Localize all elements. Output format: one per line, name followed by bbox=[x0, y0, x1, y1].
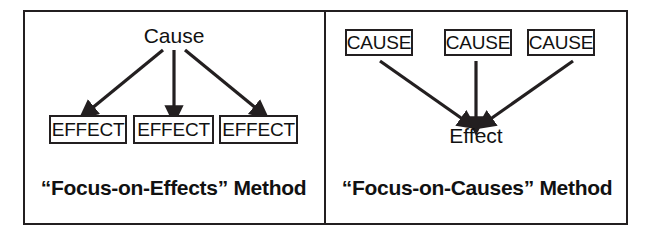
panel-focus-on-effects: Cause EFFECT EFFECT EFFECT “Focus-on-Eff… bbox=[23, 10, 324, 225]
node-effect: Effect bbox=[445, 125, 507, 146]
node-effect-1: EFFECT bbox=[49, 115, 127, 144]
caption-focus-on-causes: “Focus-on-Causes” Method bbox=[326, 176, 628, 200]
arrow-cause-to-effect-1 bbox=[380, 61, 464, 120]
node-effect-2: EFFECT bbox=[133, 115, 214, 144]
arrow-cause-to-effect-3 bbox=[489, 61, 573, 120]
arrow-cause-to-effect-3 bbox=[185, 50, 257, 109]
cause-effect-diagram: Cause EFFECT EFFECT EFFECT “Focus-on-Eff… bbox=[0, 0, 645, 239]
node-effect-3: EFFECT bbox=[219, 115, 298, 144]
arrow-cause-to-effect-1 bbox=[91, 50, 163, 109]
caption-focus-on-effects: “Focus-on-Effects” Method bbox=[23, 176, 324, 200]
panel-focus-on-causes: CAUSE CAUSE CAUSE Effect “Focus-on-Cause… bbox=[326, 10, 628, 225]
